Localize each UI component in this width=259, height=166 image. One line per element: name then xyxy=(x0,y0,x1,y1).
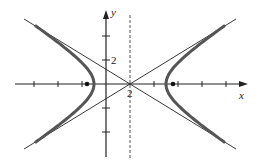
x-axis: x 2 xyxy=(15,81,248,101)
hyperbola-diagram: x 2 y 2 xyxy=(0,0,259,166)
x-axis-label: x xyxy=(238,89,244,101)
y-axis-label: y xyxy=(110,6,116,18)
y-axis-arrow-icon xyxy=(103,10,109,19)
y-tick-label: 2 xyxy=(111,54,117,66)
x-axis-arrow-icon xyxy=(239,81,248,87)
focus-left xyxy=(85,82,90,87)
focus-right xyxy=(171,82,176,87)
y-axis: y 2 xyxy=(102,6,117,157)
